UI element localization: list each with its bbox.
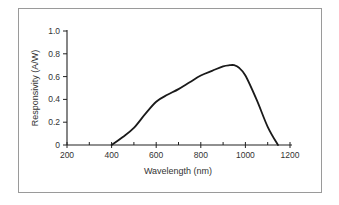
y-tick-label: 0.6 bbox=[48, 72, 60, 82]
x-axis-title: Wavelength (nm) bbox=[144, 166, 212, 176]
y-tick-label: 0.4 bbox=[48, 94, 60, 104]
y-tick-label: 0.8 bbox=[48, 49, 60, 59]
y-tick-label: 1.0 bbox=[48, 26, 60, 36]
x-tick-label: 1200 bbox=[281, 150, 300, 160]
y-tick-label: 0.2 bbox=[48, 117, 60, 127]
tick-labels: 2004006008001000120000.20.40.60.81.0 bbox=[48, 26, 300, 160]
y-axis-title: Responsivity (A/W) bbox=[30, 50, 40, 127]
x-tick-label: 400 bbox=[105, 150, 119, 160]
responsivity-curve bbox=[112, 65, 278, 145]
x-tick-label: 200 bbox=[60, 150, 74, 160]
x-tick-label: 800 bbox=[194, 150, 208, 160]
x-tick-label: 1000 bbox=[236, 150, 255, 160]
x-tick-label: 600 bbox=[149, 150, 163, 160]
y-tick-label: 0 bbox=[55, 140, 60, 150]
responsivity-chart: 2004006008001000120000.20.40.60.81.0 Wav… bbox=[0, 0, 339, 205]
